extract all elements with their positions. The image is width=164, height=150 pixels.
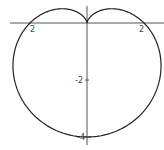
y-tick-label-neg4: -4 <box>77 133 85 142</box>
x-tick-label-neg2: 2 <box>30 25 35 34</box>
x-tick-label-pos2: 2 <box>139 25 144 34</box>
cardioid-plot: 2 2 -2 -4 <box>0 0 164 150</box>
y-tick-label-neg2: -2 <box>75 76 83 85</box>
